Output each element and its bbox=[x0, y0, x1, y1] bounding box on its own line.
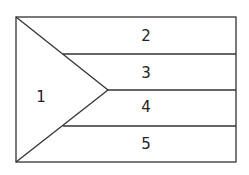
region-2-label: 2 bbox=[141, 27, 151, 45]
region-4-label: 4 bbox=[141, 98, 151, 116]
region-5-label: 5 bbox=[141, 135, 151, 153]
flag-diagram: 1 2 3 4 5 bbox=[0, 0, 249, 175]
region-1-label: 1 bbox=[36, 88, 46, 106]
region-3-label: 3 bbox=[141, 64, 151, 82]
